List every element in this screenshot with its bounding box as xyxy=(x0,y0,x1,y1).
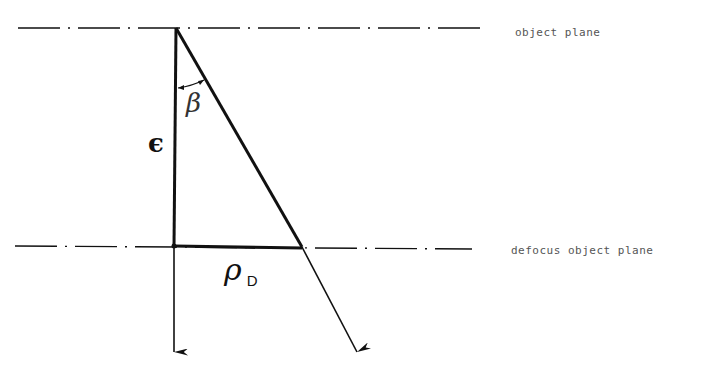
rho-d-segment xyxy=(174,246,302,248)
defocus-object-plane-label: defocus object plane xyxy=(511,244,653,257)
oblique-ray-arrow xyxy=(302,247,357,352)
intersection-dot xyxy=(172,244,177,249)
object-plane-label: object plane xyxy=(515,26,600,39)
defocus-diagram xyxy=(0,0,707,365)
epsilon-segment xyxy=(174,28,176,246)
oblique-ray-segment xyxy=(176,28,302,247)
rho-d-label: ρD xyxy=(224,252,257,287)
beta-arc-arrow-right xyxy=(198,80,204,85)
beta-label: β xyxy=(186,88,201,118)
rho-subscript: D xyxy=(247,272,258,289)
epsilon-label: ϵ xyxy=(148,128,164,158)
rho-symbol: ρ xyxy=(224,252,242,287)
